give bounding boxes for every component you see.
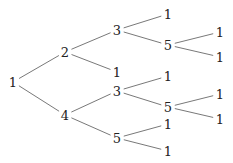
tree-node-leaf: 1 — [164, 117, 172, 132]
tree-edge — [124, 78, 162, 89]
tree-edge — [175, 47, 213, 56]
tree-node-leaf: 1 — [164, 69, 172, 84]
tree-node: 4 — [61, 108, 69, 123]
tree-node: 5 — [113, 131, 121, 146]
tree-edge — [71, 94, 110, 112]
tree-node-leaf: 1 — [216, 112, 224, 127]
tree-node-leaf: 1 — [216, 87, 224, 102]
tree-node: 5 — [164, 100, 172, 115]
tree-edge — [175, 34, 213, 44]
tree-node: 3 — [113, 84, 121, 99]
tree-edge — [175, 96, 213, 106]
tree-node-leaf: 1 — [113, 65, 121, 80]
tree-node-leaf: 1 — [164, 7, 172, 22]
tree-edge — [71, 118, 110, 135]
tree-node-leaf: 1 — [216, 25, 224, 40]
tree-edge — [19, 55, 59, 78]
tree-edge — [71, 33, 110, 50]
tree-edge — [19, 86, 59, 111]
tree-edge — [72, 55, 111, 70]
tree-edge — [124, 140, 161, 150]
tree-node-leaf: 1 — [164, 144, 172, 159]
tree-edge — [124, 16, 162, 28]
tree-edge — [175, 109, 213, 118]
tree-node: 2 — [61, 45, 69, 60]
tree-nodes: 1 2 4 3 1 3 5 1 5 1 5 1 1 1 1 1 1 — [9, 7, 224, 159]
tree-edge — [124, 126, 161, 136]
tree-node: 5 — [164, 38, 172, 53]
tree-edge — [124, 32, 162, 43]
tree-node-leaf: 1 — [216, 50, 224, 65]
tree-node-root: 1 — [9, 75, 17, 90]
tree-edge — [124, 93, 162, 105]
tree-diagram: 1 2 4 3 1 3 5 1 5 1 5 1 1 1 1 1 1 — [0, 0, 233, 163]
tree-node: 3 — [113, 23, 121, 38]
